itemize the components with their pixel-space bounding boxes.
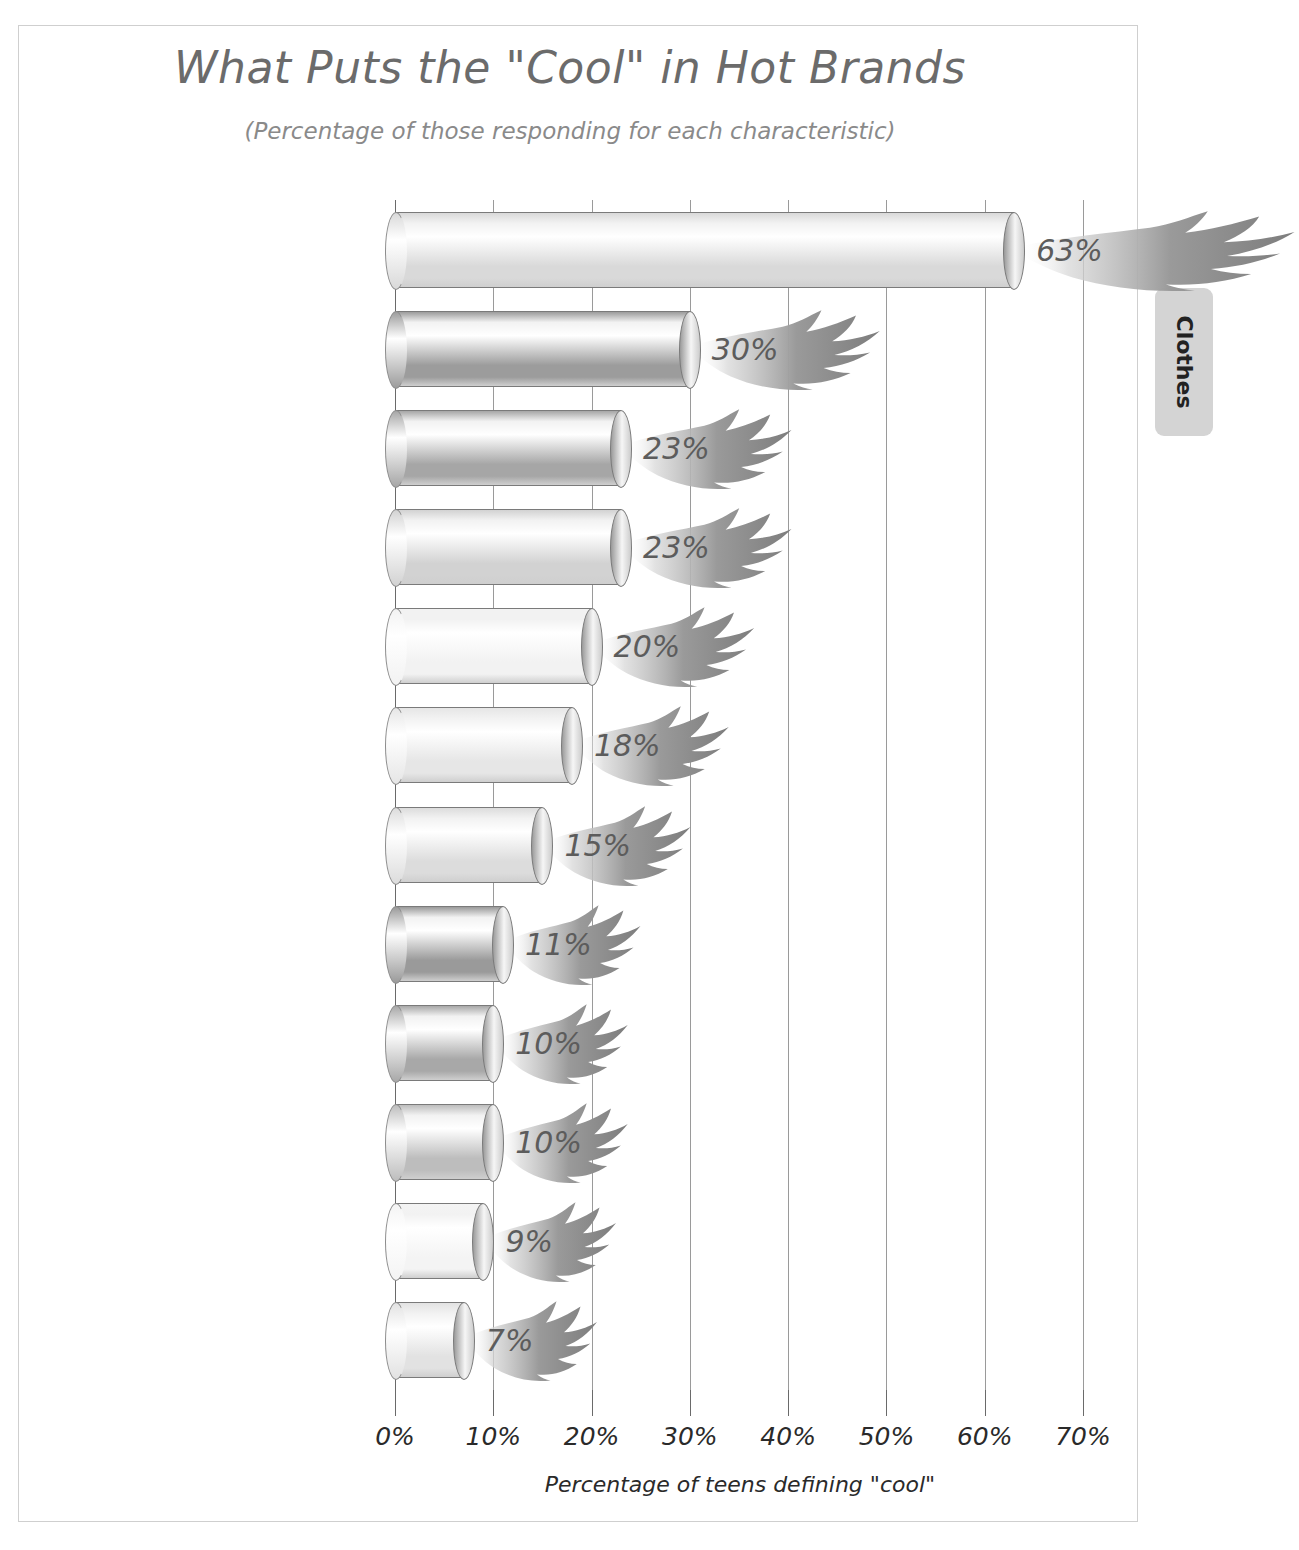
x-axis-tick: [690, 1390, 691, 1416]
bar-value-label: 63%: [1036, 232, 1103, 267]
chart-row: Sold at cool store11%: [395, 894, 1083, 993]
x-axis-tick: [592, 1390, 593, 1416]
bar-left-cap: [385, 707, 407, 785]
chart-row: Expensive10%: [395, 993, 1083, 1092]
x-axis-tick: [1083, 1390, 1084, 1416]
chart-row: Celebrity I admire uses it9%: [395, 1192, 1083, 1291]
bar[interactable]: [395, 1203, 483, 1279]
chart-row: Everyone uses it18%: [395, 696, 1083, 795]
bar-right-cap: [679, 311, 701, 389]
bar-body: [396, 1204, 483, 1278]
bar-body: [396, 312, 690, 386]
bar-body: [396, 213, 1014, 287]
x-axis-tick: [886, 1390, 887, 1416]
bar-left-cap: [385, 807, 407, 885]
bar-value-label: 30%: [712, 331, 779, 366]
chart-row: Packaging7%: [395, 1291, 1083, 1390]
bar-left-cap: [385, 1203, 407, 1281]
x-axis-tick-label: 30%: [645, 1422, 735, 1451]
bar-body: [396, 708, 572, 782]
bar-value-label: 11%: [525, 926, 592, 961]
chart-row: For people my age30%: [395, 299, 1083, 398]
bar-right-cap: [1003, 212, 1025, 290]
bar-value-label: 23%: [643, 430, 710, 465]
bar-right-cap: [610, 509, 632, 587]
x-axis-tick-label: 50%: [841, 1422, 931, 1451]
bar[interactable]: [395, 311, 690, 387]
x-axis-tick: [985, 1390, 986, 1416]
x-axis-tick-label: 60%: [940, 1422, 1030, 1451]
x-axis-tick: [788, 1390, 789, 1416]
bar[interactable]: [395, 608, 592, 684]
bar-left-cap: [385, 1302, 407, 1380]
x-axis-tick-label: 0%: [350, 1422, 440, 1451]
bar-left-cap: [385, 608, 407, 686]
bar-right-cap: [581, 608, 603, 686]
bar[interactable]: [395, 1302, 464, 1378]
bar-left-cap: [385, 509, 407, 587]
bar-right-cap: [610, 410, 632, 488]
bar-right-cap: [482, 1104, 504, 1182]
chart-row: Quality63%: [395, 200, 1083, 299]
chart-subtitle: (Percentage of those responding for each…: [0, 118, 1140, 144]
bar[interactable]: [395, 807, 542, 883]
bar-body: [396, 411, 621, 485]
bar-left-cap: [385, 410, 407, 488]
plot-area: 0%10%20%30%40%50%60%70%Percentage of tee…: [395, 200, 1083, 1390]
chart-row: It's unique23%: [395, 398, 1083, 497]
bar-value-label: 7%: [486, 1323, 534, 1358]
bar-body: [396, 1006, 493, 1080]
bar-value-label: 20%: [614, 629, 681, 664]
x-axis-tick-label: 20%: [547, 1422, 637, 1451]
side-tab-label: Clothes: [1172, 316, 1197, 409]
bar[interactable]: [395, 707, 572, 783]
x-axis-tick: [493, 1390, 494, 1416]
chart-row: New brand10%: [395, 1093, 1083, 1192]
bar-right-cap: [453, 1302, 475, 1380]
bar-value-label: 10%: [515, 1025, 582, 1060]
bar-value-label: 23%: [643, 530, 710, 565]
x-axis-title: Percentage of teens defining "cool": [195, 1472, 1285, 1497]
gridline: [1083, 200, 1084, 1390]
chart-row: Advertising23%: [395, 498, 1083, 597]
side-tab-clothes[interactable]: Clothes: [1155, 288, 1213, 436]
bar-body: [396, 1105, 493, 1179]
bar-value-label: 15%: [564, 827, 631, 862]
bar-right-cap: [482, 1005, 504, 1083]
bar-body: [396, 609, 592, 683]
chart-row: "Cool" friends/peers use it20%: [395, 597, 1083, 696]
bar-left-cap: [385, 1005, 407, 1083]
bar[interactable]: [395, 1104, 493, 1180]
bar-left-cap: [385, 311, 407, 389]
bar[interactable]: [395, 509, 621, 585]
bar-left-cap: [385, 906, 407, 984]
bar-right-cap: [561, 707, 583, 785]
bar[interactable]: [395, 212, 1014, 288]
bar[interactable]: [395, 410, 621, 486]
bar-body: [396, 510, 621, 584]
bar-value-label: 10%: [515, 1125, 582, 1160]
bar-value-label: 9%: [505, 1224, 553, 1259]
bar[interactable]: [395, 906, 503, 982]
x-axis-tick-label: 10%: [448, 1422, 538, 1451]
chart-title: What Puts the "Cool" in Hot Brands: [0, 42, 1140, 93]
x-axis-tick: [395, 1390, 396, 1416]
bar[interactable]: [395, 1005, 493, 1081]
bar-body: [396, 808, 542, 882]
bar-body: [396, 907, 503, 981]
bar-right-cap: [492, 906, 514, 984]
bar-value-label: 18%: [594, 728, 661, 763]
bar-right-cap: [531, 807, 553, 885]
bar-left-cap: [385, 1104, 407, 1182]
x-axis-tick-label: 40%: [743, 1422, 833, 1451]
bar-left-cap: [385, 212, 407, 290]
x-axis-tick-label: 70%: [1038, 1422, 1128, 1451]
chart-row: Around a long time15%: [395, 795, 1083, 894]
bar-right-cap: [472, 1203, 494, 1281]
